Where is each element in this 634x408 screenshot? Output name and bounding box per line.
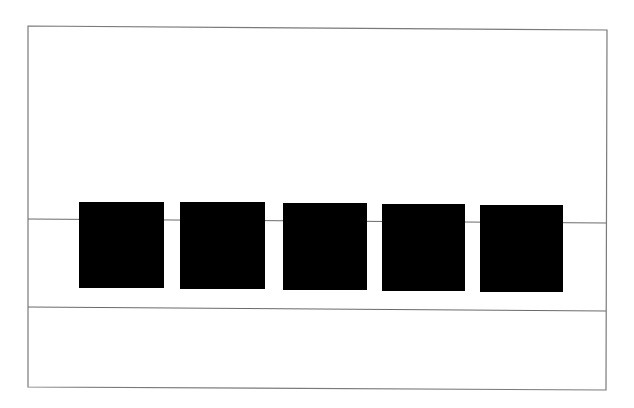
diagram-canvas xyxy=(0,0,634,408)
black-square-5 xyxy=(480,205,563,292)
squares-group xyxy=(79,202,563,292)
divider-line xyxy=(28,307,606,311)
black-square-3 xyxy=(283,203,367,290)
black-square-2 xyxy=(180,202,265,289)
black-square-1 xyxy=(79,202,164,288)
black-square-4 xyxy=(382,204,465,291)
